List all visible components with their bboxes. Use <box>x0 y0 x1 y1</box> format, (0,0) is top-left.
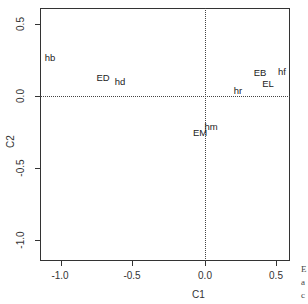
y-tick <box>35 24 40 25</box>
x-tick <box>132 261 133 266</box>
y-tick <box>35 96 40 97</box>
x-axis-title: C1 <box>192 289 205 300</box>
x-tick <box>61 261 62 266</box>
plot-area <box>40 8 290 261</box>
y-tick-label: 0.5 <box>15 9 27 39</box>
x-tick <box>276 261 277 266</box>
point-label-hm: hm <box>204 121 217 132</box>
y-tick <box>35 168 40 169</box>
x-tick-label: 0.0 <box>190 270 220 281</box>
x-tick-label: -1.0 <box>45 270 75 281</box>
point-label-EB: EB <box>254 67 267 78</box>
y-axis-title: C2 <box>5 132 16 152</box>
point-label-ED: ED <box>96 72 109 83</box>
point-label-hb: hb <box>45 52 56 63</box>
point-label-EL: EL <box>262 78 274 89</box>
y-tick-label: -1.0 <box>15 225 27 255</box>
x-tick-label: -0.5 <box>117 270 147 281</box>
cutoff-caption-text: E <box>301 264 307 274</box>
y-tick <box>35 240 40 241</box>
y-tick-label: -0.5 <box>15 153 27 183</box>
point-label-hd: hd <box>115 76 126 87</box>
y-tick-label: 0.0 <box>15 81 27 111</box>
horizontal-zero-line <box>40 96 290 97</box>
x-tick-label: 0.5 <box>261 270 291 281</box>
cutoff-caption-text: a <box>301 277 305 287</box>
x-tick <box>205 261 206 266</box>
point-label-hr: hr <box>234 85 242 96</box>
point-label-hf: hf <box>278 66 286 77</box>
cutoff-caption-text: c <box>301 290 305 300</box>
